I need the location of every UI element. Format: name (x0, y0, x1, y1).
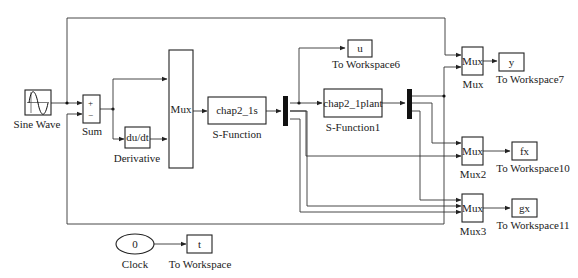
to-workspace7-block[interactable]: y To Workspace7 (496, 53, 565, 85)
mux-main-text: Mux (171, 103, 192, 115)
to-workspace-label: To Workspace (169, 258, 232, 270)
s-function1-block[interactable]: chap2_1plant S-Function1 (323, 89, 382, 133)
s-function1-text: chap2_1plant (323, 97, 382, 109)
mux-main-block[interactable]: Mux (169, 50, 193, 168)
s-function-label: S-Function (213, 128, 262, 140)
sum-block[interactable]: + − Sum (82, 95, 103, 137)
derivative-block[interactable]: du/dt Derivative (114, 127, 161, 164)
s-function-text: chap2_1s (216, 104, 258, 116)
mux3-text: Mux (462, 202, 483, 214)
sum-label: Sum (82, 125, 103, 137)
derivative-text: du/dt (126, 131, 149, 143)
to-workspace10-label: To Workspace10 (496, 162, 570, 174)
to-workspace-block[interactable]: t To Workspace (169, 235, 232, 270)
to-workspace7-text: y (509, 56, 515, 68)
to-workspace6-label: To Workspace6 (332, 58, 401, 70)
wires (51, 18, 510, 244)
to-workspace11-block[interactable]: gx To Workspace11 (496, 199, 569, 231)
derivative-label: Derivative (114, 152, 161, 164)
to-workspace6-block[interactable]: u To Workspace6 (332, 40, 401, 70)
to-workspace11-text: gx (519, 202, 531, 214)
sine-wave-label: Sine Wave (14, 118, 61, 130)
clock-label: Clock (122, 258, 149, 270)
sum-minus-sign: − (88, 110, 93, 120)
clock-text: 0 (132, 238, 138, 250)
to-workspace11-label: To Workspace11 (496, 219, 569, 231)
to-workspace-text: t (198, 238, 201, 250)
s-function1-label: S-Function1 (326, 121, 380, 133)
sum-plus-sign: + (88, 98, 93, 108)
mux3-block[interactable]: Mux Mux3 (460, 194, 487, 237)
mux2-block[interactable]: Mux Mux2 (460, 137, 486, 180)
mux-y-block[interactable]: Mux Mux (462, 47, 484, 90)
simulink-canvas: Sine Wave + − Sum du/dt Derivative Mux c… (0, 0, 578, 278)
mux3-label: Mux3 (460, 225, 487, 237)
s-function-block[interactable]: chap2_1s S-Function (208, 97, 266, 140)
mux-y-label: Mux (463, 78, 484, 90)
to-workspace6-text: u (357, 42, 363, 54)
clock-block[interactable]: 0 Clock (116, 234, 154, 270)
sine-wave-block[interactable]: Sine Wave (14, 90, 61, 130)
demux-bar-1[interactable] (283, 96, 288, 126)
to-workspace7-label: To Workspace7 (496, 73, 565, 85)
mux-y-text: Mux (462, 55, 483, 67)
to-workspace10-text: fx (520, 145, 530, 157)
mux2-text: Mux (462, 145, 483, 157)
mux2-label: Mux2 (460, 168, 486, 180)
demux-bar-2[interactable] (407, 89, 412, 119)
to-workspace10-block[interactable]: fx To Workspace10 (496, 142, 570, 174)
